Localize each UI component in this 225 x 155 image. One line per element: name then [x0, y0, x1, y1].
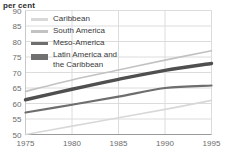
x-tick-label: 1980 [63, 139, 81, 148]
y-tick-label: 75 [13, 53, 22, 62]
y-tick-label: 70 [13, 69, 22, 78]
legend-label: Meso-America [53, 38, 105, 48]
legend-item: Meso-America [31, 38, 117, 49]
x-tick-label: 1990 [156, 139, 174, 148]
legend-label: Latin America and the Caribbean [53, 50, 117, 69]
legend-label: South America [53, 26, 105, 36]
chart-legend: CaribbeanSouth AmericaMeso-AmericaLatin … [31, 14, 117, 70]
y-tick-label: 55 [13, 115, 22, 124]
y-tick-label: 85 [13, 22, 22, 31]
legend-swatch [31, 30, 48, 33]
legend-item: Latin America and the Caribbean [31, 50, 117, 70]
y-axis-tick-labels: 505560657075808590 [13, 7, 22, 140]
legend-swatch [31, 54, 48, 60]
legend-item: Caribbean [31, 14, 117, 25]
y-tick-label: 90 [13, 7, 22, 16]
y-tick-label: 80 [13, 38, 22, 47]
legend-label: Caribbean [53, 14, 90, 24]
chart-container: per cent 505560657075808590 197519801985… [0, 0, 225, 155]
legend-item: South America [31, 26, 117, 37]
legend-swatch [31, 42, 48, 45]
y-tick-label: 60 [13, 100, 22, 109]
legend-swatch [31, 18, 48, 21]
x-tick-label: 1985 [110, 139, 128, 148]
x-tick-label: 1995 [203, 139, 221, 148]
y-tick-label: 65 [13, 84, 22, 93]
x-axis-tick-labels: 19751980198519901995 [17, 139, 221, 148]
x-tick-label: 1975 [17, 139, 35, 148]
